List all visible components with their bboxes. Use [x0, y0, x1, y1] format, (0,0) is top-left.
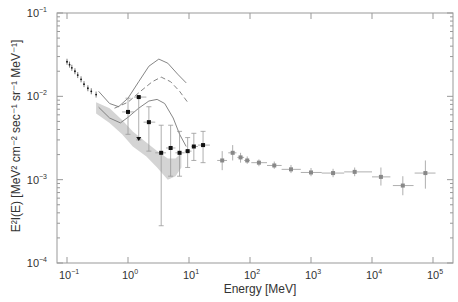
point-marker	[83, 83, 85, 85]
data-point	[301, 168, 322, 176]
y-axis-label: E²I(E) [MeV² cm⁻² sec⁻¹ sr⁻¹ MeV⁻¹]	[9, 1, 25, 271]
x-axis-label: Energy [MeV]	[190, 282, 330, 296]
point-marker	[231, 151, 235, 155]
data-point	[393, 176, 414, 195]
data-point	[344, 167, 372, 176]
data-point	[228, 145, 236, 160]
point-marker	[245, 158, 249, 162]
x-tick-label: 105	[427, 268, 443, 281]
data-point	[282, 165, 301, 173]
data-point	[322, 169, 344, 177]
y-tick-label: 10−3	[27, 173, 47, 186]
solid-curve	[99, 59, 187, 107]
point-marker	[80, 78, 82, 80]
x-tick-label: 103	[305, 268, 321, 281]
x-tick-label: 104	[366, 268, 382, 281]
y-tick-label: 10−1	[27, 6, 47, 19]
point-marker	[289, 167, 293, 171]
data-points	[66, 59, 435, 226]
dashed-curve	[115, 77, 188, 108]
data-point	[198, 131, 210, 162]
point-marker	[71, 67, 73, 69]
point-marker	[147, 120, 151, 124]
point-marker	[309, 170, 313, 174]
data-point	[66, 59, 68, 65]
data-point	[191, 133, 198, 160]
plot-frame	[57, 13, 453, 263]
data-point	[217, 151, 227, 170]
x-tick-label: 100	[122, 268, 138, 281]
data-point	[71, 65, 73, 71]
point-marker	[220, 158, 224, 162]
point-marker	[257, 161, 261, 165]
point-marker	[95, 94, 97, 96]
data-point	[74, 68, 76, 74]
point-marker	[239, 155, 243, 159]
data-point	[267, 162, 282, 169]
x-tick-label: 101	[183, 268, 199, 281]
point-marker	[186, 149, 190, 153]
model-curves	[99, 59, 188, 146]
point-marker	[178, 151, 182, 155]
point-marker	[331, 171, 335, 175]
data-point	[87, 85, 89, 91]
point-marker	[201, 143, 205, 147]
y-tick-label: 10−2	[27, 89, 47, 102]
point-marker	[423, 171, 427, 175]
data-point	[90, 88, 92, 94]
chart-plot: 10−110010110210310410510−110−210−310−4	[0, 0, 458, 302]
point-marker	[159, 151, 163, 155]
data-point	[415, 160, 436, 188]
point-marker	[126, 110, 130, 114]
point-marker	[69, 64, 71, 66]
data-point	[80, 76, 82, 82]
point-marker	[74, 70, 76, 72]
data-point	[83, 81, 85, 87]
data-point	[251, 159, 267, 166]
data-point	[95, 92, 97, 98]
x-tick-label: 10−1	[59, 268, 79, 281]
point-marker	[272, 163, 276, 167]
point-marker	[77, 74, 79, 76]
point-marker	[137, 95, 141, 99]
point-marker	[87, 87, 89, 89]
point-marker	[192, 145, 196, 149]
data-point	[185, 138, 192, 168]
point-marker	[169, 146, 173, 150]
data-point	[77, 72, 79, 78]
x-tick-label: 102	[244, 268, 260, 281]
point-marker	[401, 184, 405, 188]
y-tick-label: 10−4	[27, 256, 47, 269]
data-point	[237, 153, 244, 163]
data-point	[244, 156, 250, 163]
data-point	[69, 62, 71, 68]
point-marker	[379, 175, 383, 179]
axes: 10−110010110210310410510−110−210−310−4	[27, 6, 453, 281]
point-marker	[353, 170, 357, 174]
point-marker	[90, 90, 92, 92]
data-point	[372, 167, 390, 185]
point-marker	[66, 61, 68, 63]
